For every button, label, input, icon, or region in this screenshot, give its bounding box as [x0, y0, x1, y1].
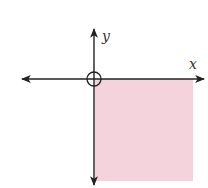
coordinate-plane: y x — [0, 0, 208, 188]
y-axis-label: y — [101, 28, 111, 44]
shaded-region-quadrant-iv — [95, 79, 193, 181]
x-axis-label: x — [189, 56, 197, 72]
